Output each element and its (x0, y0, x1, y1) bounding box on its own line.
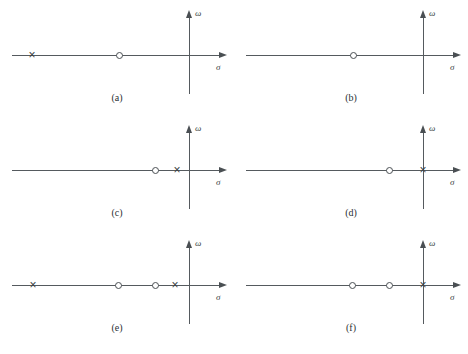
pole-marker-2 (171, 281, 180, 290)
zero-marker-1 (349, 282, 356, 289)
pole-marker-1 (28, 51, 37, 60)
imaginary-axis-line (189, 18, 190, 94)
real-axis-arrow-icon (219, 52, 227, 58)
real-axis-arrow-icon (453, 282, 461, 288)
pole-marker-1 (173, 166, 182, 175)
real-axis-label-sigma: σ (450, 178, 454, 187)
imaginary-axis-label-omega: ω (429, 9, 435, 18)
panel-caption-e: (e) (0, 322, 234, 333)
zero-marker-2 (386, 282, 393, 289)
pole-zero-plot-f: σω(f) (234, 230, 468, 348)
imaginary-axis-line (189, 248, 190, 324)
imaginary-axis-arrow-icon (420, 240, 426, 248)
imaginary-axis-arrow-icon (420, 10, 426, 18)
pole-marker-1 (419, 166, 428, 175)
imaginary-axis-arrow-icon (186, 125, 192, 133)
imaginary-axis-label-omega: ω (195, 239, 201, 248)
imaginary-axis-arrow-icon (420, 125, 426, 133)
imaginary-axis-arrow-icon (186, 240, 192, 248)
pole-zero-plot-c: σω(c) (0, 115, 234, 233)
pole-marker-1 (419, 281, 428, 290)
pole-marker-1 (29, 281, 38, 290)
real-axis-label-sigma: σ (216, 293, 220, 302)
panel-caption-c: (c) (0, 207, 234, 218)
panel-caption-a: (a) (0, 92, 234, 103)
imaginary-axis-label-omega: ω (429, 124, 435, 133)
zero-marker-2 (152, 282, 159, 289)
panel-caption-f: (f) (234, 322, 468, 333)
zero-marker-1 (386, 167, 393, 174)
imaginary-axis-line (189, 133, 190, 209)
real-axis-arrow-icon (219, 167, 227, 173)
real-axis-label-sigma: σ (216, 63, 220, 72)
real-axis-label-sigma: σ (450, 293, 454, 302)
panel-caption-d: (d) (234, 207, 468, 218)
imaginary-axis-line (423, 18, 424, 94)
real-axis-line (12, 170, 219, 171)
pole-zero-plot-e: σω(e) (0, 230, 234, 348)
real-axis-label-sigma: σ (450, 63, 454, 72)
pole-zero-plot-d: σω(d) (234, 115, 468, 233)
pole-zero-plot-a: σω(a) (0, 0, 234, 118)
panel-caption-b: (b) (234, 92, 468, 103)
real-axis-arrow-icon (219, 282, 227, 288)
real-axis-arrow-icon (453, 167, 461, 173)
pole-zero-figure: σω(a)σω(b)σω(c)σω(d)σω(e)σω(f) (0, 0, 468, 354)
imaginary-axis-label-omega: ω (195, 9, 201, 18)
zero-marker-1 (115, 282, 122, 289)
real-axis-label-sigma: σ (216, 178, 220, 187)
imaginary-axis-label-omega: ω (429, 239, 435, 248)
imaginary-axis-arrow-icon (186, 10, 192, 18)
pole-zero-plot-b: σω(b) (234, 0, 468, 118)
figure-caption (8, 346, 460, 354)
zero-marker-1 (152, 167, 159, 174)
real-axis-arrow-icon (453, 52, 461, 58)
zero-marker-1 (116, 52, 123, 59)
imaginary-axis-label-omega: ω (195, 124, 201, 133)
zero-marker-1 (350, 52, 357, 59)
